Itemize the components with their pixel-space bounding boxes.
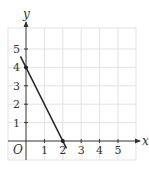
x-tick-label: 3 bbox=[78, 144, 85, 157]
y-tick-label: 5 bbox=[13, 43, 20, 56]
y-axis-label: y bbox=[22, 7, 30, 21]
tick-labels: 1234512345 bbox=[13, 43, 122, 157]
grid-border bbox=[8, 28, 136, 160]
series-line bbox=[20, 56, 66, 148]
x-axis-label: x bbox=[142, 134, 149, 148]
origin-label: O bbox=[13, 143, 23, 157]
data-point bbox=[61, 139, 65, 143]
y-tick-label: 1 bbox=[13, 117, 20, 130]
y-tick-label: 2 bbox=[13, 98, 20, 111]
grid-lines bbox=[8, 28, 136, 160]
data-point bbox=[24, 65, 28, 69]
coordinate-plane: 1234512345 x y O bbox=[0, 0, 149, 175]
x-axis-arrow-icon bbox=[135, 139, 141, 144]
x-tick-label: 4 bbox=[96, 144, 103, 157]
y-axis-arrow-icon bbox=[24, 21, 29, 27]
axes bbox=[8, 21, 141, 160]
data-line bbox=[20, 56, 66, 148]
x-tick-label: 1 bbox=[41, 144, 48, 157]
y-tick-label: 4 bbox=[13, 61, 20, 74]
y-tick-label: 3 bbox=[13, 80, 20, 93]
x-tick-label: 5 bbox=[115, 144, 122, 157]
